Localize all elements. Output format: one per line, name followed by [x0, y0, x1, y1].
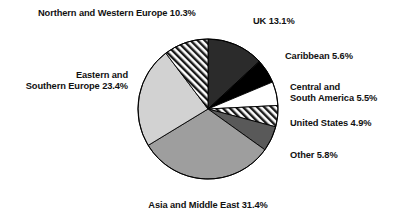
pie-slice-group	[138, 39, 278, 179]
pie-chart-svg	[0, 0, 396, 220]
pie-chart-figure: Northern and Western Europe 10.3% UK 13.…	[0, 0, 396, 220]
